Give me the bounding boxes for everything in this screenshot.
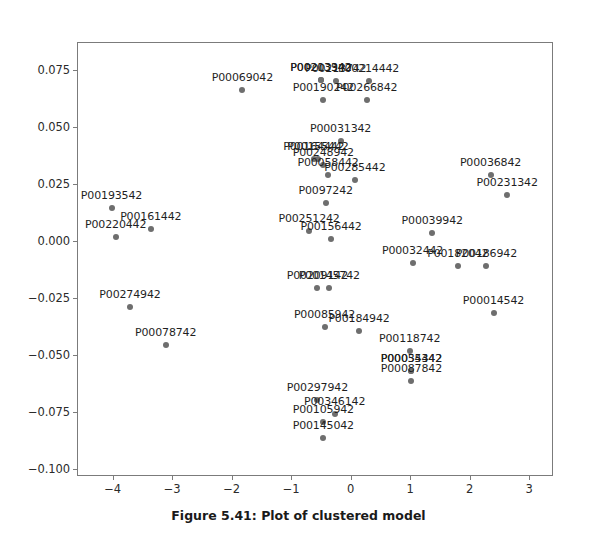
x-tick-label: 1 [407, 482, 414, 496]
y-tick-label: 0.050 [38, 120, 70, 134]
data-point [163, 342, 169, 348]
x-tick-label: −1 [283, 482, 300, 496]
point-label: P0097242 [298, 184, 352, 197]
point-label: P00069042 [212, 71, 273, 84]
point-label: P00105942 [293, 403, 354, 416]
point-label: P00118742 [379, 332, 440, 345]
point-label: P00184942 [328, 312, 389, 325]
point-label: P00087842 [381, 362, 442, 375]
y-tick-mark [73, 355, 77, 356]
data-point [483, 263, 489, 269]
point-label: P00193542 [81, 189, 142, 202]
y-tick-label: −0.050 [28, 348, 70, 362]
y-tick-mark [73, 70, 77, 71]
x-tick-mark [351, 476, 352, 480]
data-point [328, 236, 334, 242]
point-label: P00214442 [338, 62, 399, 75]
x-tick-mark [291, 476, 292, 480]
data-point [429, 230, 435, 236]
data-point [314, 285, 320, 291]
y-tick-label: 0.075 [38, 63, 70, 77]
data-point [364, 97, 370, 103]
x-tick-label: 3 [526, 482, 533, 496]
data-point [326, 285, 332, 291]
point-label: P00156442 [300, 220, 361, 233]
point-label: P00145742 [299, 269, 360, 282]
figure-container: 0.0750.0500.0250.000−0.025−0.050−0.075−0… [0, 0, 597, 538]
data-point [239, 87, 245, 93]
data-point [356, 328, 362, 334]
point-label: P00039942 [402, 214, 463, 227]
x-tick-label: −3 [164, 482, 181, 496]
data-point [320, 435, 326, 441]
data-point [113, 234, 119, 240]
point-label: P00274942 [99, 288, 160, 301]
x-tick-mark [113, 476, 114, 480]
point-label: P00078742 [135, 326, 196, 339]
point-label: P00297942 [287, 381, 348, 394]
y-tick-label: −0.100 [28, 462, 70, 476]
point-label: P00186942 [456, 247, 517, 260]
data-point [127, 304, 133, 310]
point-label: P00220442 [85, 218, 146, 231]
x-tick-mark [529, 476, 530, 480]
data-point [320, 97, 326, 103]
y-tick-label: 0.000 [38, 234, 70, 248]
data-point [455, 263, 461, 269]
y-tick-mark [73, 412, 77, 413]
point-label: P00145042 [293, 419, 354, 432]
y-tick-label: −0.075 [28, 405, 70, 419]
x-tick-label: −4 [104, 482, 121, 496]
point-label: P00031342 [310, 122, 371, 135]
y-tick-mark [73, 241, 77, 242]
point-label: P00266842 [336, 81, 397, 94]
y-tick-mark [73, 127, 77, 128]
y-tick-label: 0.025 [38, 177, 70, 191]
y-tick-label: −0.025 [28, 291, 70, 305]
y-tick-mark [73, 184, 77, 185]
x-tick-mark [410, 476, 411, 480]
data-point [148, 226, 154, 232]
y-tick-mark [73, 298, 77, 299]
data-point [322, 324, 328, 330]
point-label: P00036842 [460, 156, 521, 169]
point-label: P00231342 [477, 176, 538, 189]
y-tick-mark [73, 469, 77, 470]
data-point [323, 200, 329, 206]
x-tick-label: 2 [466, 482, 473, 496]
x-tick-mark [232, 476, 233, 480]
x-tick-mark [172, 476, 173, 480]
x-tick-label: −2 [223, 482, 240, 496]
x-tick-label: 0 [347, 482, 354, 496]
data-point [491, 310, 497, 316]
point-label: P00014542 [463, 294, 524, 307]
point-label: P00285442 [324, 161, 385, 174]
data-point [352, 177, 358, 183]
x-tick-mark [470, 476, 471, 480]
data-point [504, 192, 510, 198]
data-point [408, 378, 414, 384]
figure-caption: Figure 5.41: Plot of clustered model [0, 508, 597, 523]
data-point [410, 260, 416, 266]
data-point [109, 205, 115, 211]
